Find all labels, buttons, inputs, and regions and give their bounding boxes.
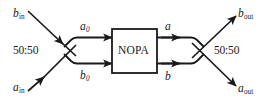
label-a-out: aout: [238, 83, 253, 95]
label-a: a: [165, 21, 171, 33]
b-in-tail: [61, 42, 76, 56]
rail-a0: [64, 38, 112, 48]
rail-a: [157, 38, 204, 48]
label-a-in: ain: [13, 82, 24, 94]
rail-b: [157, 54, 204, 64]
a-in-arrow: [28, 77, 44, 91]
diagram-canvas: bin ain 50:50 a0 b0 NOPA a b 50:50 bout …: [0, 0, 271, 102]
label-bs-left: 50:50: [13, 45, 38, 57]
label-b-out: bout: [238, 8, 253, 20]
rail-b0: [64, 54, 112, 64]
label-a0: a0: [80, 21, 89, 33]
label-bs-right: 50:50: [214, 45, 239, 57]
label-b-in: bin: [13, 8, 24, 20]
label-b: b: [165, 71, 171, 83]
b-in-arrow: [28, 11, 63, 44]
label-b0: b0: [80, 70, 89, 82]
label-nopa: NOPA: [118, 45, 149, 57]
